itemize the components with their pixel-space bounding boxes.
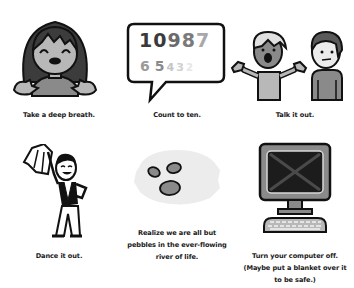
panel-dance-it-out: Dance it out. [0, 144, 118, 288]
computer-off-icon [256, 142, 334, 240]
panel-deep-breath: Take a deep breath. [0, 0, 118, 144]
caption-line: to be safe.) [236, 274, 354, 286]
dancing-person-icon [18, 144, 94, 240]
digit: 5 [155, 58, 165, 74]
caption-talk-it-out: Talk it out. [236, 109, 354, 121]
smiling-girl-icon [10, 10, 100, 100]
digit: 0 [153, 29, 167, 51]
numbers-row-2: 6 5432 [140, 58, 193, 76]
panel-pebbles: Realize we are all but pebbles in the ev… [118, 144, 236, 288]
caption-line: pebbles in the ever-flowing [118, 239, 236, 251]
digit: 8 [182, 29, 196, 51]
panel-computer-off: Turn your computer off. (Maybe put a bla… [236, 144, 354, 288]
digit: 7 [196, 29, 210, 51]
caption-line: Talk it out. [236, 109, 354, 121]
caption-line: Turn your computer off. [236, 250, 354, 262]
digit: 6 [140, 58, 150, 74]
caption-count-to-ten: Count to ten. [118, 109, 236, 121]
panel-count-to-ten: 10987 6 5432 Count to ten. [118, 0, 236, 144]
digit: 3 [176, 61, 184, 74]
digit: 4 [167, 61, 175, 74]
caption-line: Take a deep breath. [0, 109, 118, 121]
pebbles-in-river-icon [132, 148, 222, 206]
digit: 1 [139, 29, 153, 51]
caption-line: Realize we are all but [118, 227, 236, 239]
caption-line: river of life. [118, 251, 236, 263]
caption-line: Count to ten. [118, 109, 236, 121]
caption-deep-breath: Take a deep breath. [0, 109, 118, 121]
panel-talk-it-out: Talk it out. [236, 0, 354, 144]
caption-line: Dance it out. [0, 250, 118, 262]
caption-dance-it-out: Dance it out. [0, 250, 118, 262]
numbers-row-1: 10987 [139, 30, 210, 50]
digit: 9 [167, 29, 181, 51]
caption-line: (Maybe put a blanket over it [236, 262, 354, 274]
caption-pebbles: Realize we are all but pebbles in the ev… [118, 227, 236, 263]
caption-computer-off: Turn your computer off. (Maybe put a bla… [236, 250, 354, 286]
digit: 2 [186, 62, 193, 73]
two-people-talking-icon [230, 28, 354, 102]
